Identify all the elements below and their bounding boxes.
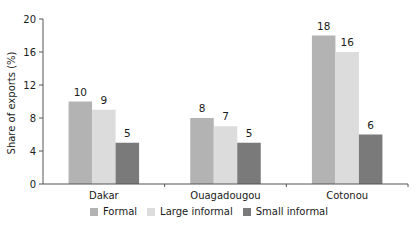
bar-chart: Share of exports (%) 048121620 109587518… — [0, 0, 418, 230]
value-label: 10 — [74, 86, 87, 98]
y-tick-label: 12 — [23, 80, 36, 91]
value-label: 5 — [124, 127, 131, 139]
y-tick-label: 4 — [30, 146, 36, 157]
category-label: Dakar — [89, 190, 120, 201]
y-tick-label: 16 — [23, 47, 36, 58]
y-tick-label: 8 — [30, 113, 36, 124]
value-label: 6 — [367, 119, 374, 131]
legend-label: Formal — [103, 206, 137, 217]
bar — [335, 52, 359, 184]
bar — [312, 36, 336, 185]
legend-swatch-icon — [243, 208, 251, 216]
legend-item: Small informal — [243, 206, 328, 217]
y-axis: 048121620 — [23, 14, 43, 190]
bar — [190, 118, 214, 184]
bar — [116, 143, 140, 184]
value-label: 8 — [199, 102, 206, 114]
category-label: Cotonou — [326, 190, 368, 201]
y-axis-label: Share of exports (%) — [6, 51, 17, 154]
legend-label: Large informal — [160, 206, 233, 217]
legend-item: Large informal — [147, 206, 233, 217]
category-label: Ouagadougou — [190, 190, 260, 201]
bar — [237, 143, 261, 184]
y-tick-label: 0 — [30, 179, 36, 190]
legend-item: Formal — [90, 206, 137, 217]
value-label: 7 — [222, 110, 229, 122]
value-label: 5 — [246, 127, 253, 139]
bar — [92, 110, 116, 184]
legend-label: Small informal — [256, 206, 328, 217]
x-axis: DakarOuagadougouCotonou — [43, 184, 408, 201]
value-label: 16 — [340, 36, 354, 48]
bar — [359, 135, 383, 185]
value-label: 9 — [100, 94, 107, 106]
bar — [214, 126, 238, 184]
bar — [69, 102, 93, 185]
y-tick-label: 20 — [23, 14, 36, 25]
legend-swatch-icon — [147, 208, 155, 216]
value-label: 18 — [317, 20, 330, 32]
legend: FormalLarge informalSmall informal — [0, 206, 418, 217]
legend-swatch-icon — [90, 208, 98, 216]
bars: 109587518166 — [69, 20, 383, 185]
